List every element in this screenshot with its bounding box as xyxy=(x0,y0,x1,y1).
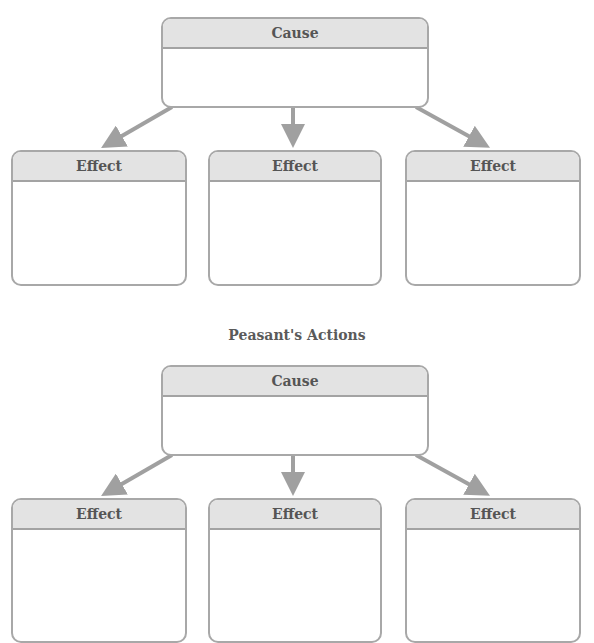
effect-box: Effect xyxy=(405,150,581,286)
effect-content[interactable] xyxy=(210,182,380,284)
effect-box: Effect xyxy=(11,150,187,286)
cause-content[interactable] xyxy=(163,49,427,106)
cause-header: Cause xyxy=(163,367,427,397)
effect-box: Effect xyxy=(208,150,382,286)
arrow-right-icon xyxy=(416,455,483,492)
effect-header: Effect xyxy=(210,500,380,530)
effect-header: Effect xyxy=(210,152,380,182)
effect-box: Effect xyxy=(208,498,382,643)
cause-header: Cause xyxy=(163,19,427,49)
effect-header: Effect xyxy=(407,500,579,530)
effect-header: Effect xyxy=(13,500,185,530)
effect-box: Effect xyxy=(405,498,581,643)
cause-box: Cause xyxy=(161,17,429,108)
effect-header: Effect xyxy=(407,152,579,182)
cause-content[interactable] xyxy=(163,397,427,454)
effect-content[interactable] xyxy=(13,530,185,641)
effect-box: Effect xyxy=(11,498,187,643)
cause-box: Cause xyxy=(161,365,429,456)
effect-header: Effect xyxy=(13,152,185,182)
arrow-left-icon xyxy=(108,107,172,144)
effect-content[interactable] xyxy=(13,182,185,284)
arrow-right-icon xyxy=(416,107,483,144)
arrow-left-icon xyxy=(108,455,172,492)
effect-content[interactable] xyxy=(407,530,579,641)
effect-content[interactable] xyxy=(407,182,579,284)
diagram-title: Peasant's Actions xyxy=(0,327,594,343)
effect-content[interactable] xyxy=(210,530,380,641)
